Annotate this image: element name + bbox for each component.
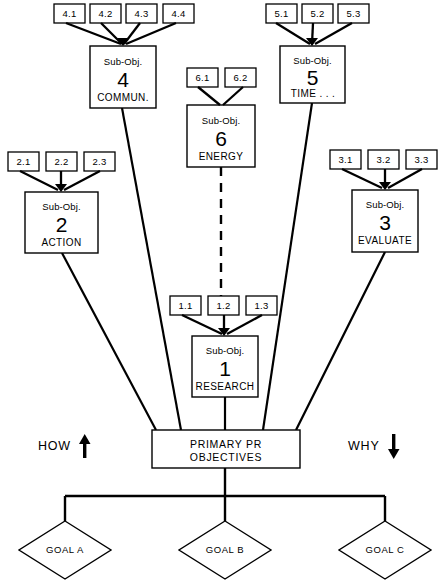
connector-sub3-primary	[296, 252, 385, 430]
goals-connector-tree	[65, 468, 385, 521]
how-arrow-icon	[79, 434, 91, 458]
tag-1-1-box[interactable]	[170, 296, 201, 315]
objectives-hierarchy-diagram: Sub-Obj. 4 COMMUN. 4.1 4.2 4.3 4.4 Sub-O…	[0, 0, 442, 582]
tag-2-3-box[interactable]	[84, 152, 115, 171]
tag-1-2-box[interactable]	[208, 296, 239, 315]
goal-c-diamond[interactable]	[339, 521, 431, 579]
goal-a-diamond[interactable]	[19, 521, 111, 579]
subobj-1-group	[170, 296, 277, 397]
subobj-2-group	[8, 152, 115, 253]
subobj-6-tag-connectors	[198, 87, 243, 105]
tag-4-3-box[interactable]	[126, 4, 157, 23]
goal-b-diamond[interactable]	[179, 521, 271, 579]
tag-5-2-box[interactable]	[302, 4, 333, 23]
subobj-4-box[interactable]	[90, 46, 156, 108]
subobj-2-box[interactable]	[25, 192, 98, 253]
subobj-3-arrowhead	[379, 182, 391, 190]
subobj-2-arrowhead	[55, 184, 67, 192]
subobj-1-box[interactable]	[192, 336, 258, 397]
why-arrow-icon	[388, 434, 400, 459]
subobj-6-group	[187, 68, 256, 167]
tag-3-1-box[interactable]	[330, 150, 361, 169]
primary-objectives-box[interactable]	[152, 430, 300, 468]
subobj-6-box[interactable]	[187, 105, 255, 167]
tag-6-2-box[interactable]	[225, 68, 256, 87]
tag-1-3-box[interactable]	[246, 296, 277, 315]
connector-sub2-primary	[62, 253, 156, 430]
tag-4-2-box[interactable]	[90, 4, 121, 23]
subobj-3-group	[330, 150, 437, 252]
tag-3-3-box[interactable]	[406, 150, 437, 169]
tag-4-1-box[interactable]	[54, 4, 85, 23]
tag-5-3-box[interactable]	[338, 4, 369, 23]
tag-2-2-box[interactable]	[46, 152, 77, 171]
subobj-5-group	[266, 4, 369, 103]
goal-diamonds	[19, 521, 431, 579]
diagram-canvas	[0, 0, 442, 582]
connector-sub5-primary	[263, 103, 312, 430]
subobj-4-group	[54, 4, 194, 108]
tag-5-1-box[interactable]	[266, 4, 297, 23]
tag-3-2-box[interactable]	[368, 150, 399, 169]
tag-4-4-box[interactable]	[163, 4, 194, 23]
subobj-5-box[interactable]	[280, 46, 345, 103]
tag-6-1-box[interactable]	[187, 68, 218, 87]
subobj-3-box[interactable]	[352, 190, 418, 252]
tag-2-1-box[interactable]	[8, 152, 39, 171]
